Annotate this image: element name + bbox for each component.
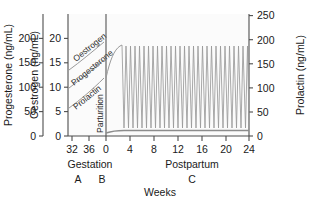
prolactin-tick-0: 0 xyxy=(257,130,263,142)
x-tick-4: 4 xyxy=(127,143,133,155)
chart-svg: 200 150 100 50 0 Progesterone (ng/mL) 20… xyxy=(0,0,318,199)
phase-c-label: C xyxy=(188,173,196,185)
x-tick-36: 36 xyxy=(83,143,95,155)
prolactin-tick-250: 250 xyxy=(257,9,275,21)
oestrogen-axis-title: Oestrogen (ng/mL) xyxy=(28,31,40,119)
prolactin-axis-title: Prolactin (ng/mL) xyxy=(294,35,306,115)
prolactin-axis: 250 200 150 100 50 0 Prolactin (ng/mL) xyxy=(249,9,306,141)
prolactin-tick-200: 200 xyxy=(257,34,275,46)
x-tick-16: 16 xyxy=(196,143,208,155)
x-axis: 32 36 0 4 8 12 16 20 24 xyxy=(66,136,255,155)
hormone-levels-chart: 200 150 100 50 0 Progesterone (ng/mL) 20… xyxy=(0,0,318,199)
prolactin-tick-100: 100 xyxy=(257,82,275,94)
x-tick-32: 32 xyxy=(66,143,78,155)
x-tick-8: 8 xyxy=(151,143,157,155)
prolactin-tick-150: 150 xyxy=(257,58,275,70)
phase-a-label: A xyxy=(74,173,81,185)
x-tick-24: 24 xyxy=(243,143,255,155)
oestrogen-tick-0: 0 xyxy=(55,130,61,142)
progesterone-tick-0: 0 xyxy=(30,130,36,142)
oestrogen-tick-5: 5 xyxy=(55,105,61,117)
weeks-axis-label: Weeks xyxy=(144,186,176,198)
segment-labels: Gestation A B Postpartum C Weeks xyxy=(68,158,220,198)
prolactin-tick-50: 50 xyxy=(257,106,269,118)
phase-b-label: B xyxy=(98,173,105,185)
x-tick-12: 12 xyxy=(172,143,184,155)
progesterone-axis-title: Progesterone (ng/mL) xyxy=(2,24,14,126)
gestation-label: Gestation xyxy=(68,158,113,170)
oestrogen-tick-15: 15 xyxy=(49,56,61,68)
oestrogen-axis: 20 15 10 5 0 Oestrogen (ng/mL) xyxy=(28,14,68,142)
oestrogen-tick-10: 10 xyxy=(49,81,61,93)
postpartum-label: Postpartum xyxy=(165,158,219,170)
x-tick-20: 20 xyxy=(220,143,232,155)
x-tick-0: 0 xyxy=(103,143,109,155)
oestrogen-tick-20: 20 xyxy=(49,32,61,44)
parturition-label: Parturition xyxy=(95,94,105,133)
